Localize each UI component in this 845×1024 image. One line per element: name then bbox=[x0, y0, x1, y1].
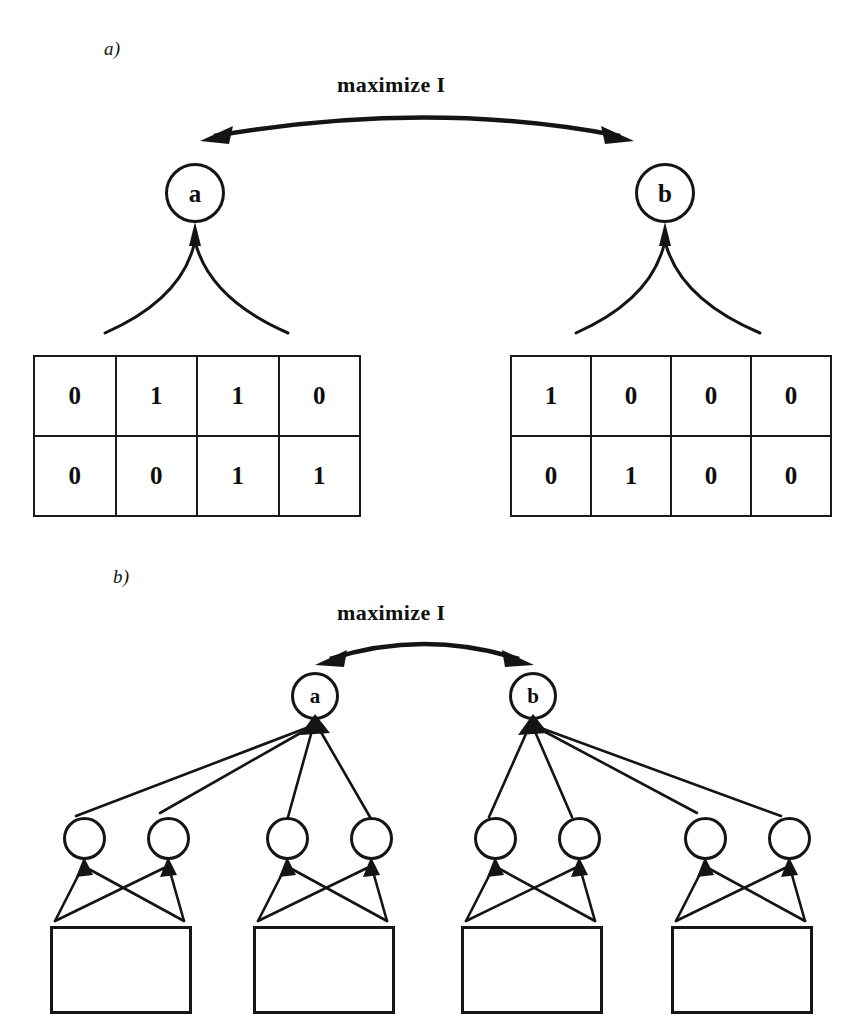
panel-a-left-fan bbox=[105, 222, 288, 333]
table-cell: 1 bbox=[197, 356, 279, 436]
table-cell: 1 bbox=[279, 436, 361, 516]
table-cell: 1 bbox=[591, 436, 671, 516]
panel-b-label: b) bbox=[113, 566, 129, 588]
panel-b-node-b: b bbox=[509, 672, 557, 720]
panel-b-hidden-unit-1 bbox=[63, 817, 106, 860]
panel-b-objective-label: maximize I bbox=[337, 600, 445, 626]
panel-b-maximize-arrow bbox=[315, 644, 534, 667]
panel-b-hidden-unit-5 bbox=[474, 817, 517, 860]
table-row: 0 1 0 0 bbox=[511, 436, 831, 516]
panel-b-cross-edges-4 bbox=[676, 857, 805, 921]
table-cell: 0 bbox=[671, 356, 751, 436]
panel-a-objective-label: maximize I bbox=[337, 72, 445, 98]
panel-b-input-block-1 bbox=[50, 926, 192, 1014]
panel-b-cross-edges-2 bbox=[258, 857, 387, 921]
panel-b-cross-edges-1 bbox=[55, 857, 184, 921]
panel-b-hidden-unit-2 bbox=[147, 817, 190, 860]
table-cell: 1 bbox=[511, 356, 591, 436]
panel-b-input-block-4 bbox=[671, 926, 813, 1014]
panel-b-node-b-edges bbox=[489, 714, 781, 817]
table-cell: 1 bbox=[116, 356, 198, 436]
table-row: 0 0 1 1 bbox=[34, 436, 360, 516]
table-cell: 0 bbox=[116, 436, 198, 516]
panel-b-node-a-edges bbox=[76, 714, 370, 817]
table-cell: 0 bbox=[591, 356, 671, 436]
panel-a-right-fan bbox=[576, 222, 760, 333]
panel-b-hidden-unit-7 bbox=[684, 817, 727, 860]
table-row: 1 0 0 0 bbox=[511, 356, 831, 436]
panel-a-right-bit-table: 1 0 0 0 0 1 0 0 bbox=[510, 355, 832, 517]
panel-a-node-a-label: a bbox=[189, 181, 202, 206]
panel-b-input-block-3 bbox=[461, 926, 603, 1014]
panel-b-node-a: a bbox=[291, 672, 339, 720]
panel-b-hidden-unit-4 bbox=[350, 817, 393, 860]
panel-b-node-a-label: a bbox=[310, 686, 321, 707]
table-cell: 0 bbox=[511, 436, 591, 516]
panel-b-hidden-unit-8 bbox=[768, 817, 811, 860]
panel-a-label: a) bbox=[104, 38, 120, 60]
panel-b-node-b-label: b bbox=[527, 686, 539, 707]
panel-b-input-block-2 bbox=[253, 926, 395, 1014]
table-row: 0 1 1 0 bbox=[34, 356, 360, 436]
panel-b-hidden-unit-6 bbox=[558, 817, 601, 860]
panel-b-cross-edges-3 bbox=[466, 857, 595, 921]
panel-b-hidden-unit-3 bbox=[266, 817, 309, 860]
table-cell: 1 bbox=[197, 436, 279, 516]
figure-root: a) maximize I a b 0 1 1 0 0 0 1 1 1 0 0 … bbox=[0, 0, 845, 1024]
panel-a-node-a: a bbox=[165, 163, 225, 223]
panel-a-node-b-label: b bbox=[658, 181, 672, 206]
table-cell: 0 bbox=[34, 436, 116, 516]
panel-a-maximize-arrow bbox=[200, 118, 634, 145]
table-cell: 0 bbox=[34, 356, 116, 436]
table-cell: 0 bbox=[671, 436, 751, 516]
panel-a-left-bit-table: 0 1 1 0 0 0 1 1 bbox=[33, 355, 361, 517]
table-cell: 0 bbox=[751, 356, 831, 436]
table-cell: 0 bbox=[279, 356, 361, 436]
table-cell: 0 bbox=[751, 436, 831, 516]
panel-a-node-b: b bbox=[635, 163, 695, 223]
